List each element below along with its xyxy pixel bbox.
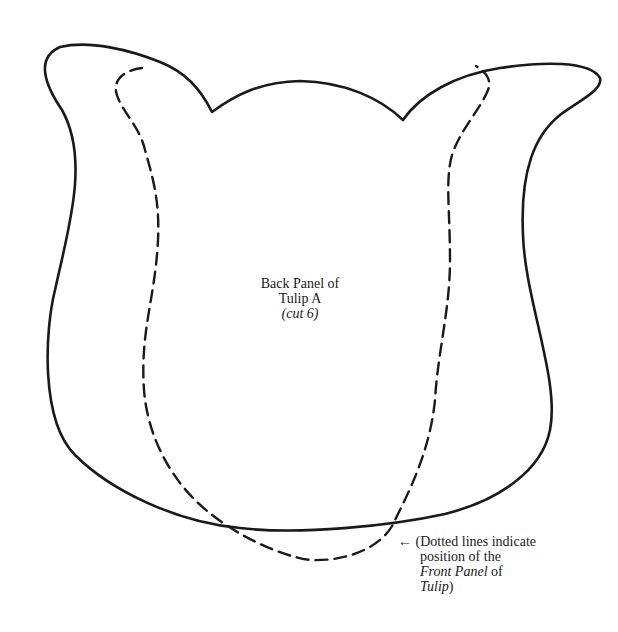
pattern-title-line1: Back Panel of	[230, 276, 370, 291]
note-line-2: position of the	[398, 549, 618, 564]
dotted-lines-note: ← (Dotted lines indicate position of the…	[398, 534, 618, 594]
pattern-cut-count: (cut 6)	[230, 306, 370, 321]
left-arrow-icon: ←	[398, 534, 412, 549]
note-line-4: Tulip)	[398, 579, 618, 594]
pattern-title-line2: Tulip A	[230, 291, 370, 306]
note-line-1: ← (Dotted lines indicate	[398, 534, 618, 549]
note-line-3: Front Panel of	[398, 564, 618, 579]
pattern-label: Back Panel of Tulip A (cut 6)	[230, 276, 370, 321]
